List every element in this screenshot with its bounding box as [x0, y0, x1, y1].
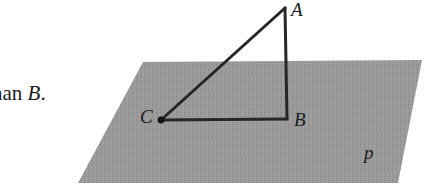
plane-label-p: p	[364, 143, 374, 162]
caption-text-after: .	[40, 81, 45, 105]
geometry-canvas	[0, 0, 424, 187]
plane-p-shape	[78, 60, 422, 183]
geometry-figure: A B C p han B.	[0, 0, 424, 187]
vertex-label-a: A	[291, 0, 303, 19]
caption-point-reference: B	[28, 81, 41, 105]
triangle-edge-ab	[285, 8, 287, 119]
vertex-label-c: C	[140, 107, 153, 126]
caption-text-fragment: han B.	[0, 83, 46, 104]
vertex-label-b: B	[294, 110, 306, 129]
caption-text-before: han	[0, 81, 28, 105]
triangle-edge-cb	[161, 119, 287, 120]
vertex-marker-c	[158, 117, 165, 124]
